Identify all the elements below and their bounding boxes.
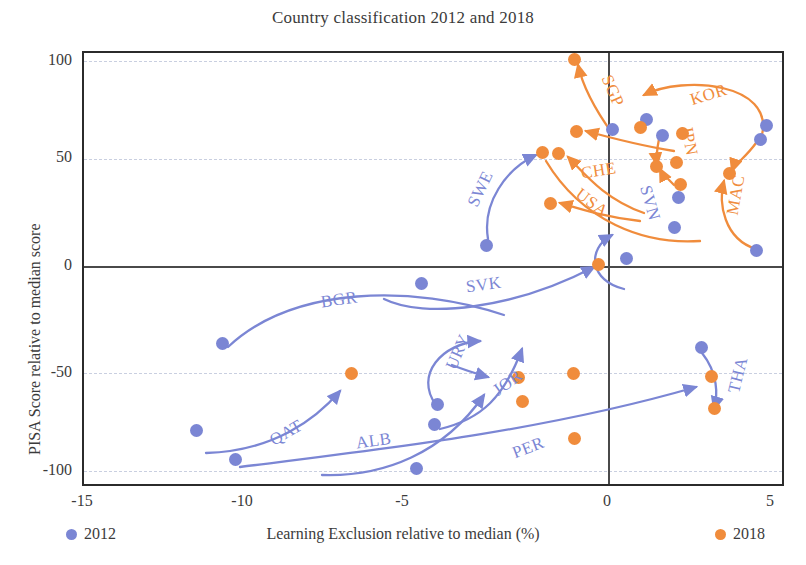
point-qat-2012[interactable] bbox=[190, 424, 203, 437]
legend-2012[interactable]: 2012 bbox=[66, 525, 116, 543]
x-tick-neg10: -10 bbox=[212, 492, 272, 510]
chart-title: Country classification 2012 and 2018 bbox=[0, 8, 806, 28]
point-svn-2012a[interactable] bbox=[672, 191, 685, 204]
point-mac-2012a[interactable] bbox=[754, 133, 767, 146]
point-svn-2012c[interactable] bbox=[620, 252, 633, 265]
point-tha-2018[interactable] bbox=[708, 402, 721, 415]
y-tick-50: 50 bbox=[8, 148, 72, 166]
point-ury-2012[interactable] bbox=[431, 398, 444, 411]
point-svn-2012b[interactable] bbox=[668, 221, 681, 234]
y-tick-100: 100 bbox=[8, 51, 72, 69]
point-swe-2012[interactable] bbox=[480, 239, 493, 252]
legend-label-2018: 2018 bbox=[733, 525, 765, 543]
legend-dot-2012 bbox=[66, 529, 77, 540]
chart-container: Country classification 2012 and 2018 PIS… bbox=[0, 0, 806, 565]
point-alb-2012[interactable] bbox=[229, 453, 242, 466]
point-svk-2012[interactable] bbox=[415, 277, 428, 290]
point-kor-2012[interactable] bbox=[760, 119, 773, 132]
point-sgp-2012[interactable] bbox=[606, 123, 619, 136]
legend-dot-2018 bbox=[715, 529, 726, 540]
point-alb-2018[interactable] bbox=[705, 370, 718, 383]
point-kor-2018[interactable] bbox=[634, 121, 647, 134]
legend-2018[interactable]: 2018 bbox=[715, 525, 765, 543]
x-tick-0: 0 bbox=[577, 492, 637, 510]
point-per-2018[interactable] bbox=[568, 432, 581, 445]
point-ury-2018b[interactable] bbox=[516, 395, 529, 408]
y-axis-label: PISA Score relative to median score bbox=[26, 224, 44, 456]
point-per-2012[interactable] bbox=[410, 462, 423, 475]
point-bgr-2012[interactable] bbox=[216, 337, 229, 350]
point-sgp-2018b[interactable] bbox=[570, 125, 583, 138]
point-qat-2018[interactable] bbox=[345, 367, 358, 380]
label-svk: SVK bbox=[465, 273, 503, 297]
point-jor-2012[interactable] bbox=[428, 418, 441, 431]
point-mac-2012b[interactable] bbox=[750, 244, 763, 257]
point-jpn2-2012[interactable] bbox=[656, 129, 669, 142]
point-jpn-2018c[interactable] bbox=[650, 160, 663, 173]
point-svk-2018[interactable] bbox=[592, 258, 605, 271]
point-jpn-2018b[interactable] bbox=[670, 156, 683, 169]
point-svn-2018[interactable] bbox=[674, 178, 687, 191]
x-axis-label: Learning Exclusion relative to median (%… bbox=[0, 525, 806, 543]
x-tick-5: 5 bbox=[740, 492, 800, 510]
y-tick-neg100: -100 bbox=[8, 461, 72, 479]
point-che-2018[interactable] bbox=[552, 147, 565, 160]
legend-label-2012: 2012 bbox=[84, 525, 116, 543]
point-tha-2012[interactable] bbox=[695, 341, 708, 354]
point-jor-2018[interactable] bbox=[567, 367, 580, 380]
point-swe-2018[interactable] bbox=[536, 146, 549, 159]
point-usa-2018[interactable] bbox=[544, 197, 557, 210]
x-tick-neg15: -15 bbox=[52, 492, 112, 510]
x-tick-neg5: -5 bbox=[372, 492, 432, 510]
point-sgp-2018[interactable] bbox=[568, 53, 581, 66]
plot-area: SGP KOR JPN MAC CHE USA SVN SWE SVK BGR … bbox=[82, 51, 784, 486]
